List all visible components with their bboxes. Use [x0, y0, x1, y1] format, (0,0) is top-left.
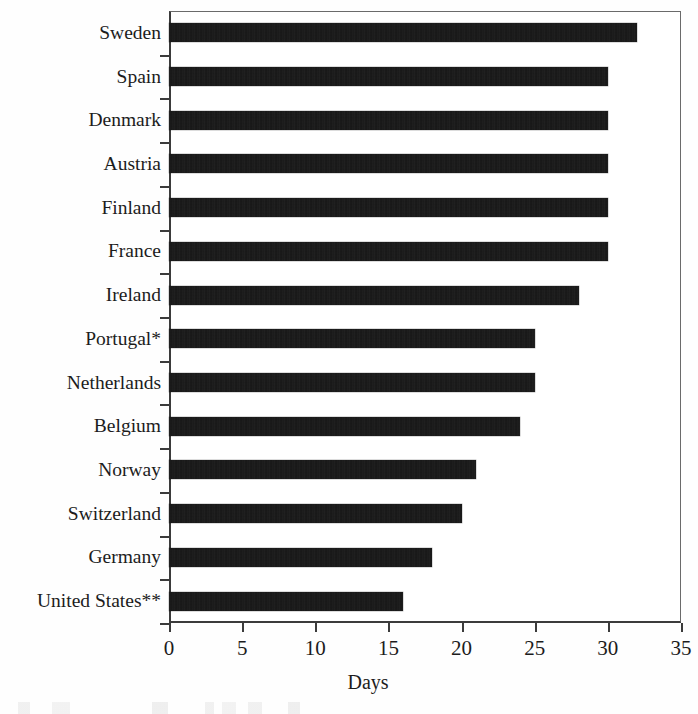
y-axis-tick — [160, 55, 169, 57]
x-axis-tick — [608, 623, 610, 632]
x-axis-tick — [535, 623, 537, 632]
y-axis-tick — [160, 492, 169, 494]
x-axis-tick — [315, 623, 317, 632]
bar-chart: SwedenSpainDenmarkAustriaFinlandFranceIr… — [0, 0, 698, 714]
x-axis-tick-label: 0 — [164, 636, 175, 660]
y-axis-tick — [160, 623, 169, 625]
x-axis-tick — [169, 623, 171, 632]
x-axis-tick-label: 5 — [237, 636, 248, 660]
y-axis-tick — [160, 579, 169, 581]
x-axis-tick-label: 35 — [671, 636, 692, 660]
x-axis-title: Days — [0, 670, 698, 694]
y-axis-tick — [160, 404, 169, 406]
x-axis-tick-label: 10 — [305, 636, 326, 660]
y-axis-tick — [160, 186, 169, 188]
x-axis-tick — [462, 623, 464, 632]
y-axis-tick — [160, 448, 169, 450]
x-axis-tick-label: 15 — [378, 636, 399, 660]
x-axis-tick-label: 25 — [524, 636, 545, 660]
x-axis-tick — [681, 623, 683, 632]
value-axis: 05101520253035 — [0, 0, 698, 714]
y-axis-tick — [160, 361, 169, 363]
y-axis-tick — [160, 317, 169, 319]
y-axis-tick — [160, 142, 169, 144]
scan-artifact — [0, 702, 698, 714]
x-axis-tick — [388, 623, 390, 632]
x-axis-tick — [242, 623, 244, 632]
y-axis-tick — [160, 98, 169, 100]
y-axis-tick — [160, 230, 169, 232]
x-axis-title-text: Days — [347, 670, 388, 694]
y-axis-tick — [160, 273, 169, 275]
x-axis-tick-label: 20 — [451, 636, 472, 660]
x-axis-tick-label: 30 — [597, 636, 618, 660]
y-axis-tick — [160, 536, 169, 538]
